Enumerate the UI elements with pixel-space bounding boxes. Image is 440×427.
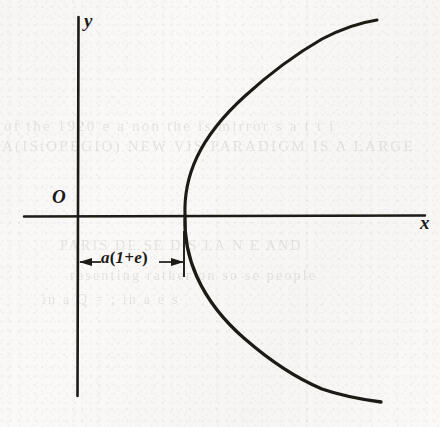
origin-label: O <box>52 186 66 208</box>
hyperbola-plot <box>0 0 440 427</box>
hyperbola-upper-branch <box>185 20 377 216</box>
hyperbola-lower-branch <box>185 216 381 402</box>
dimension-coefficient: a <box>101 248 110 267</box>
dimension-inner-expression: 1+e <box>116 248 142 267</box>
dimension-arrowhead-left <box>79 258 92 266</box>
dimension-close-paren: ) <box>142 248 148 267</box>
dimension-arrowhead-right <box>171 258 184 266</box>
dimension-label: a(1+e) <box>101 248 148 268</box>
x-axis-label: x <box>420 212 430 234</box>
x-axis-line <box>24 216 425 217</box>
y-axis-label: y <box>84 10 92 32</box>
y-axis-line <box>78 17 79 396</box>
figure-container: of the 1920 e a non the is mirror s a t … <box>0 0 440 427</box>
